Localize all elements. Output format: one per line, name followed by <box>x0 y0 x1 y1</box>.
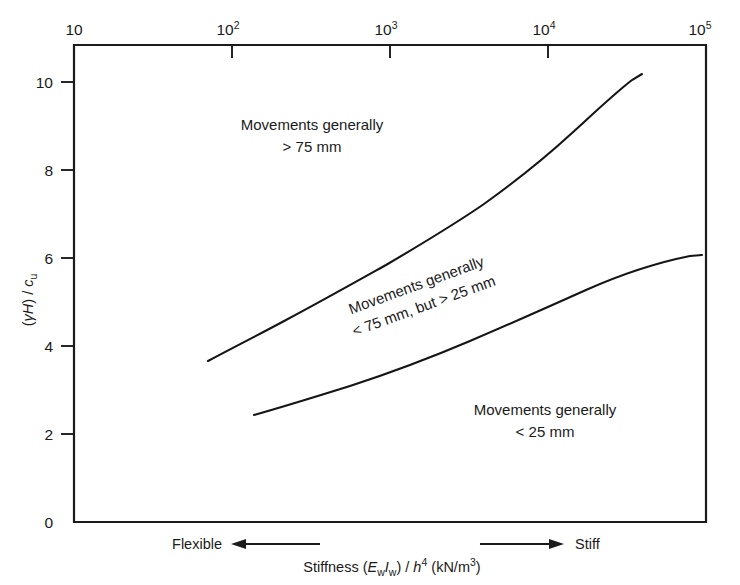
plot-frame <box>74 45 706 522</box>
axis-end-label-stiff: Stiff <box>575 536 601 552</box>
annotation-upper-line1: Movements generally <box>241 116 384 133</box>
arrow-right-head-icon <box>549 539 564 549</box>
annotation-lower: Movements generally < 25 mm <box>474 401 617 440</box>
annotation-lower-line2: < 25 mm <box>516 423 575 440</box>
y-tick-label-10: 10 <box>36 74 54 91</box>
figure-container: 10 102 103 104 105 10 8 <box>0 0 740 585</box>
y-tick-label-4: 4 <box>44 338 53 355</box>
arrow-left-head-icon <box>231 539 246 549</box>
annotation-upper-line2: > 75 mm <box>283 138 342 155</box>
x-axis-ticks <box>232 45 548 58</box>
annotation-lower-line1: Movements generally <box>474 401 617 418</box>
x-tick-label-10: 10 <box>65 21 83 38</box>
y-axis-ticks <box>61 82 74 434</box>
x-tick-label-1e5: 105 <box>688 19 711 38</box>
x-axis-title: Stiffness (EwIw) / h4 (kN/m3) <box>303 556 480 578</box>
x-tick-label-1e3: 103 <box>374 19 397 38</box>
x-axis-tick-labels: 10 102 103 104 105 <box>65 19 711 38</box>
axis-direction-indicators: Flexible Stiff <box>172 536 601 552</box>
x-tick-label-1e4: 104 <box>532 19 555 38</box>
y-tick-label-6: 6 <box>44 250 53 267</box>
y-axis-tick-labels: 10 8 6 4 2 0 <box>36 74 54 531</box>
axis-end-label-flexible: Flexible <box>172 536 222 552</box>
y-tick-label-0: 0 <box>44 514 53 531</box>
x-tick-label-1e2: 102 <box>216 19 239 38</box>
y-tick-label-8: 8 <box>44 162 53 179</box>
y-axis-title-group: (γH) / cu <box>20 274 39 327</box>
chart-canvas: 10 102 103 104 105 10 8 <box>0 0 740 585</box>
annotation-upper: Movements generally > 75 mm <box>241 116 384 155</box>
annotation-middle: Movements generally < 75 mm, but > 25 mm <box>342 251 497 339</box>
y-axis-title: (γH) / cu <box>20 274 39 327</box>
y-tick-label-2: 2 <box>44 426 53 443</box>
